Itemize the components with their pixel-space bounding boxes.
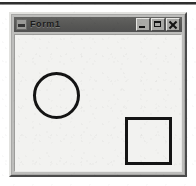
title-bar[interactable]: Form1 (14, 17, 182, 32)
form-app-icon (16, 19, 27, 30)
scan-artifact-top-rule-soft (0, 4, 196, 5)
application-window[interactable]: Form1 (9, 12, 187, 177)
maximize-icon (154, 21, 161, 27)
window-title: Form1 (30, 19, 136, 30)
window-frame-inner: Form1 (11, 14, 185, 175)
close-button[interactable] (166, 18, 180, 31)
circle-shape (33, 72, 80, 119)
minimize-button[interactable] (136, 18, 150, 31)
square-shape (125, 117, 172, 165)
form-client-area[interactable] (14, 34, 182, 172)
maximize-button[interactable] (151, 18, 165, 31)
window-controls (136, 18, 181, 31)
minimize-icon (139, 26, 145, 28)
